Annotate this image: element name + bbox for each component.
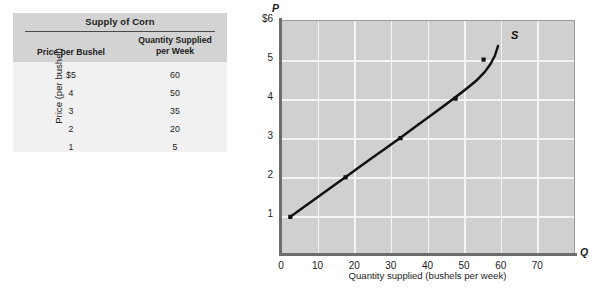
x-axis-label: Quantity supplied (bushels per week)	[281, 270, 574, 281]
supply-curve-svg	[281, 20, 574, 254]
y-axis-tick-label: 4	[233, 91, 273, 102]
y-axis-label: Price (per bushel)	[53, 21, 64, 151]
data-point-marker	[399, 136, 403, 140]
supply-curve-path	[290, 46, 498, 217]
x-axis-tick-label: 0	[261, 260, 301, 271]
y-axis-label-wrapper: Price (per bushel)	[53, 21, 69, 151]
y-axis-letter: P	[272, 2, 279, 14]
x-axis-tick-label: 70	[517, 260, 557, 271]
y-axis-tick-label: 3	[233, 130, 273, 141]
supply-curve-label: S	[511, 29, 518, 41]
y-axis-tick-label: 2	[233, 169, 273, 180]
y-axis-tick-label: 1	[233, 208, 273, 219]
supply-curve-chart: P Q S Price (per bushel) Quantity suppli…	[0, 0, 596, 289]
data-point-marker	[454, 97, 458, 101]
x-axis-letter: Q	[580, 246, 588, 258]
data-point-marker	[482, 58, 486, 62]
y-axis-tick-label: $6	[233, 13, 273, 24]
y-axis-tick-label: 5	[233, 52, 273, 63]
data-point-marker	[344, 175, 348, 179]
x-axis-tick-label: 20	[334, 260, 374, 271]
x-axis-tick-label: 40	[408, 260, 448, 271]
x-axis-tick-label: 50	[444, 260, 484, 271]
x-axis-tick-label: 30	[371, 260, 411, 271]
data-point-marker	[288, 215, 292, 219]
x-axis-tick-label: 10	[298, 260, 338, 271]
x-axis-tick-label: 60	[481, 260, 521, 271]
